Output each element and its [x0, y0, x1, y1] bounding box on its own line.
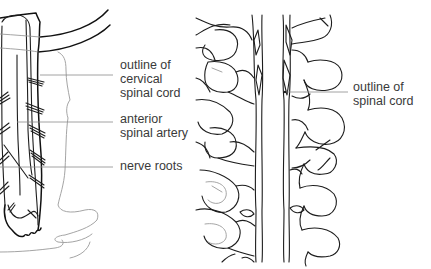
label-line: cervical: [120, 72, 180, 86]
label-line: outline of: [353, 80, 413, 94]
label-line: spinal cord: [353, 94, 413, 108]
label-line: spinal artery: [120, 126, 188, 140]
label-anterior-spinal-artery: anterior spinal artery: [120, 112, 188, 140]
label-line: spinal cord: [120, 86, 180, 100]
left-panel-drawing: [0, 10, 110, 258]
label-nerve-roots: nerve roots: [120, 159, 183, 173]
label-line: anterior: [120, 112, 188, 126]
label-outline-cervical-spinal-cord: outline of cervical spinal cord: [120, 58, 180, 100]
label-outline-spinal-cord: outline of spinal cord: [353, 80, 413, 108]
right-panel-drawing: [196, 15, 344, 266]
anatomy-figure: outline of cervical spinal cord anterior…: [0, 0, 431, 269]
leader-dot: [284, 91, 286, 93]
label-line: outline of: [120, 58, 180, 72]
label-line: nerve roots: [120, 159, 183, 173]
spinal-cord-illustration: [0, 0, 431, 269]
